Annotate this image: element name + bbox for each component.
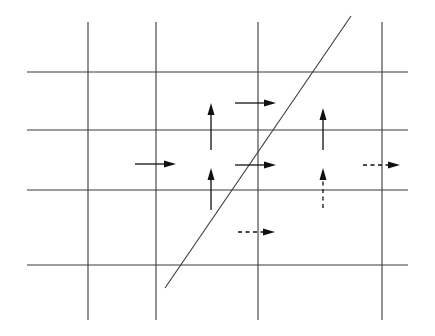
grid-diagram	[0, 0, 435, 336]
background	[0, 0, 435, 336]
